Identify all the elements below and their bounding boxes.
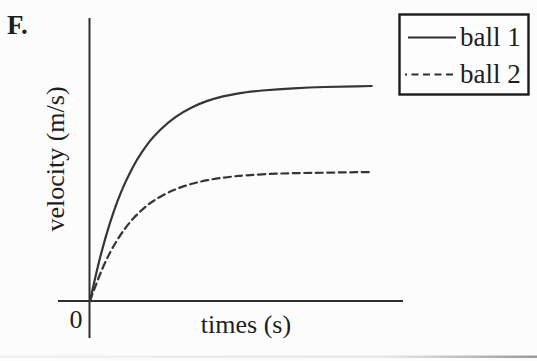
velocity-time-chart: F. velocity (m/s) times (s) 0 ball 1 bal… — [0, 0, 537, 361]
curve-ball-2 — [90, 172, 372, 301]
legend: ball 1 ball 2 — [400, 15, 529, 95]
x-axis-label: times (s) — [201, 310, 291, 339]
legend-label-ball-1: ball 1 — [460, 22, 521, 52]
origin-tick-label: 0 — [70, 305, 83, 334]
y-axis-label: velocity (m/s) — [41, 86, 70, 231]
figure-label: F. — [7, 10, 28, 40]
figure-panel-f: F. velocity (m/s) times (s) 0 ball 1 bal… — [0, 0, 537, 361]
page-scan-edge — [0, 356, 537, 359]
curve-ball-1 — [90, 86, 372, 301]
legend-label-ball-2: ball 2 — [460, 59, 521, 89]
